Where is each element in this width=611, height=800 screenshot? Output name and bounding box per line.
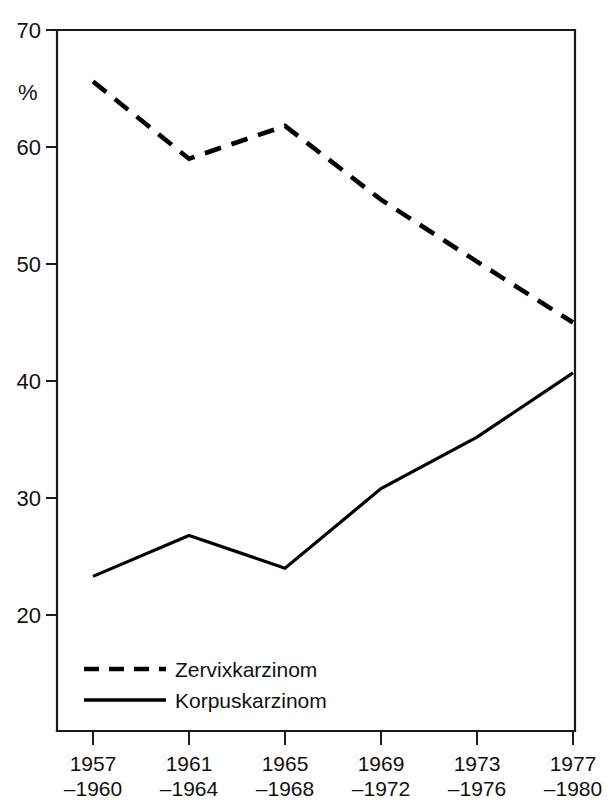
y-tick-label-60: 60: [17, 135, 41, 160]
y-tick-label-20: 20: [17, 603, 41, 628]
y-tick-label-30: 30: [17, 486, 41, 511]
legend-label-korpuskarzinom: Korpuskarzinom: [175, 689, 327, 712]
x-tick-label-2-top: 1965: [262, 752, 309, 775]
x-tick-label-1-bottom: –1964: [160, 777, 219, 800]
x-tick-labels: 1957 –1960 1961 –1964 1965 –1968 1969 –1…: [64, 752, 602, 800]
x-tick-label-3-top: 1969: [358, 752, 405, 775]
plot-frame: [57, 30, 575, 731]
x-tick-label-4-top: 1973: [454, 752, 501, 775]
line-chart: 70 60 50 40 30 20 % 1957 –1960 1961 –196…: [0, 0, 611, 800]
y-tick-label-70: 70: [17, 18, 41, 43]
x-tick-label-5-bottom: –1980: [544, 777, 602, 800]
chart-container: 70 60 50 40 30 20 % 1957 –1960 1961 –196…: [0, 0, 611, 800]
y-tick-label-40: 40: [17, 369, 41, 394]
series-line-korpuskarzinom: [93, 373, 573, 577]
x-tick-label-0-top: 1957: [70, 752, 117, 775]
x-tick-label-3-bottom: –1972: [352, 777, 410, 800]
x-tick-marks: [93, 731, 573, 745]
y-tick-marks: [46, 30, 57, 615]
y-tick-label-50: 50: [17, 252, 41, 277]
x-tick-label-5-top: 1977: [550, 752, 597, 775]
x-tick-label-2-bottom: –1968: [256, 777, 314, 800]
x-tick-label-4-bottom: –1976: [448, 777, 506, 800]
x-tick-label-0-bottom: –1960: [64, 777, 122, 800]
x-tick-label-1-top: 1961: [166, 752, 213, 775]
chart-legend: Zervixkarzinom Korpuskarzinom: [84, 658, 327, 712]
y-axis-unit-label: %: [18, 80, 38, 105]
legend-label-zervixkarzinom: Zervixkarzinom: [175, 658, 317, 681]
series-line-zervixkarzinom: [93, 81, 573, 322]
